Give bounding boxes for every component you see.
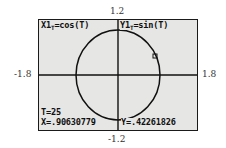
y-readout: Y=.42261826 bbox=[121, 118, 176, 127]
y-eq-sub: T bbox=[130, 24, 133, 31]
y-eq-rhs: =sin(T) bbox=[133, 20, 168, 30]
graph-canvas bbox=[39, 20, 197, 130]
t-readout: T=25 bbox=[41, 108, 61, 117]
y-equation: Y1T=sin(T) bbox=[120, 21, 168, 30]
ymin-label: -1.2 bbox=[108, 134, 125, 144]
y-eq-lhs: Y1 bbox=[120, 20, 130, 30]
x-eq-rhs: =cos(T) bbox=[54, 20, 89, 30]
xmax-label: 1.8 bbox=[202, 69, 216, 79]
x-readout: X=.90630779 bbox=[41, 118, 96, 127]
xmin-label: -1.8 bbox=[14, 69, 31, 79]
calculator-graph-screen[interactable]: X1T=cos(T) Y1T=sin(T) T=25 X=.90630779 Y… bbox=[38, 19, 198, 131]
x-eq-lhs: X1 bbox=[41, 20, 51, 30]
x-eq-sub: T bbox=[51, 24, 54, 31]
x-equation: X1T=cos(T) bbox=[41, 21, 89, 30]
ymax-label: 1.2 bbox=[110, 6, 124, 16]
